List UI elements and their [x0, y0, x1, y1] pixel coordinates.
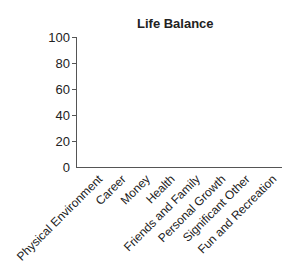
y-axis: [76, 37, 77, 168]
chart-title-text: Life Balance: [137, 16, 214, 31]
y-tick-label: 60: [30, 83, 70, 96]
y-tick: [72, 89, 76, 90]
y-tick-label: 80: [30, 57, 70, 70]
y-tick: [72, 37, 76, 38]
x-tick-label: Physical Environment: [13, 172, 104, 263]
y-tick: [72, 115, 76, 116]
y-tick-label: 20: [30, 135, 70, 148]
x-axis: [76, 167, 282, 168]
y-tick-label: 100: [30, 31, 70, 44]
y-tick-label: 40: [30, 109, 70, 122]
y-tick: [72, 63, 76, 64]
y-tick-label: 0: [30, 161, 70, 174]
y-tick: [72, 141, 76, 142]
